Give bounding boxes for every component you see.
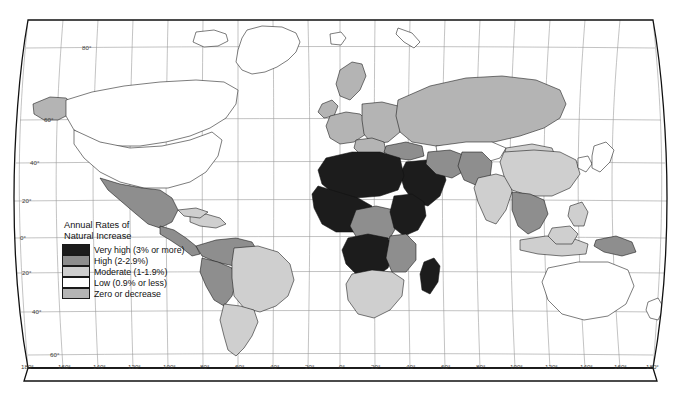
lon-label-120e: 120° [545,363,558,370]
lat-label-80n: 80° [82,44,92,51]
lon-label-180e: 180° [646,363,659,370]
lat-label-20s: 20° [22,269,32,276]
lon-label-180w: 180° [21,363,34,370]
legend-swatch-low [62,277,90,288]
lon-label-80w: 80° [200,363,210,370]
lon-label-20w: 20° [305,363,315,370]
legend-swatch-moderate [62,266,90,277]
lon-label-140e: 140° [580,363,593,370]
legend-title-line1: Annual Rates of [64,220,214,231]
world-map-figure: 80° 60° 40° 20° 0° 20° 40° 60° 180° 160°… [0,0,681,397]
lat-label-40s: 40° [32,308,42,315]
map-legend: Annual Rates of Natural Increase Very hi… [62,220,214,299]
legend-label-low: Low (0.9% or less) [94,278,167,288]
lon-label-40w: 40° [270,363,280,370]
lon-label-0: 0° [339,363,345,370]
legend-swatch-high [62,255,90,266]
lon-label-60w: 60° [235,363,245,370]
lat-label-0: 0° [20,234,26,241]
lon-label-160w: 160° [58,363,71,370]
lon-label-160e: 160° [614,363,627,370]
lon-label-40e: 40° [406,363,416,370]
lon-label-100w: 100° [163,363,176,370]
legend-item-low: Low (0.9% or less) [62,277,214,287]
lon-label-100e: 100° [510,363,523,370]
legend-label-moderate: Moderate (1-1.9%) [94,267,167,277]
legend-item-zero: Zero or decrease [62,288,214,298]
world-map-svg: 80° 60° 40° 20° 0° 20° 40° 60° 180° 160°… [0,0,681,397]
lat-label-20n: 20° [22,197,32,204]
lat-label-60n: 60° [44,116,54,123]
lat-label-40n: 40° [30,159,40,166]
legend-swatch-very-high [62,244,90,255]
lon-label-120w: 120° [128,363,141,370]
legend-swatch-zero [62,288,90,299]
legend-item-high: High (2-2.9%) [62,255,214,265]
lon-label-80e: 80° [476,363,486,370]
legend-item-very-high: Very high (3% or more) [62,244,214,254]
legend-title-line2: Natural Increase [64,231,214,242]
lat-label-60s: 60° [50,351,60,358]
region-china [500,150,580,196]
legend-title: Annual Rates of Natural Increase [64,220,214,242]
legend-label-zero: Zero or decrease [94,289,161,299]
lon-label-140w: 140° [93,363,106,370]
lon-label-60e: 60° [441,363,451,370]
legend-label-high: High (2-2.9%) [94,256,148,266]
lon-label-20e: 20° [371,363,381,370]
legend-item-moderate: Moderate (1-1.9%) [62,266,214,276]
legend-label-very-high: Very high (3% or more) [94,245,184,255]
